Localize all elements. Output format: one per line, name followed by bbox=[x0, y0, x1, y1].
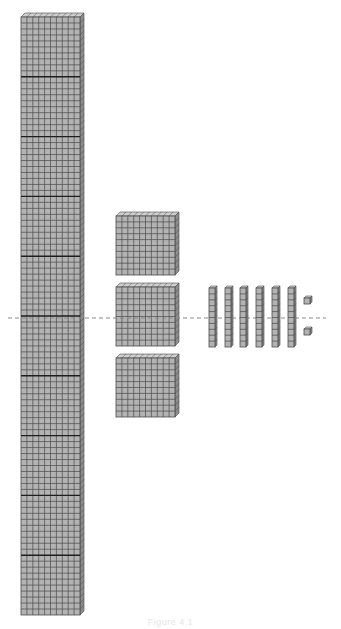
ten-rod-block-5 bbox=[272, 286, 280, 347]
hundred-flat-block-3 bbox=[116, 354, 179, 417]
thousand-column-block bbox=[21, 13, 84, 615]
figure-caption: Figure 4.1 bbox=[0, 617, 341, 627]
base-ten-blocks-diagram bbox=[0, 0, 341, 629]
ten-rod-block-4 bbox=[256, 286, 264, 347]
ten-rod-block-6 bbox=[288, 286, 296, 347]
ten-rod-block-1 bbox=[209, 286, 217, 347]
ten-rod-block-3 bbox=[240, 286, 248, 347]
unit-cube-block-2 bbox=[304, 327, 312, 335]
hundred-flat-block-1 bbox=[116, 212, 179, 275]
unit-cube-block-1 bbox=[304, 296, 312, 304]
ten-rod-block-2 bbox=[225, 286, 233, 347]
hundred-flat-block-2 bbox=[116, 283, 179, 346]
